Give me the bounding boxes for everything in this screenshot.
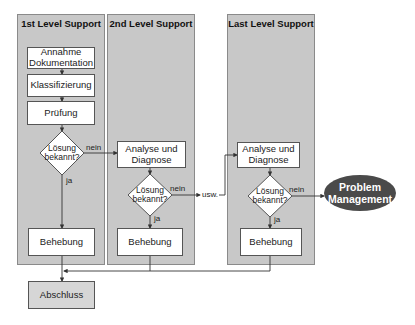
decision-label: Lösung bekannt? — [40, 144, 84, 162]
step-label: Behebung — [128, 237, 171, 248]
label-nein: nein — [289, 185, 304, 194]
step-label: Behebung — [249, 237, 292, 248]
step-klassifizierung: Klassifizierung — [27, 74, 95, 97]
step-behebung-l3: Behebung — [240, 228, 302, 256]
lane-title: Last Level Support — [228, 18, 314, 29]
step-label-line1: Analyse und — [125, 144, 177, 155]
step-label-line2: Diagnose — [248, 155, 288, 166]
step-behebung-l2: Behebung — [117, 228, 183, 256]
label-ja: ja — [274, 215, 280, 224]
decision-label: Lösung bekannt? — [248, 187, 292, 205]
node-label-line1: Problem — [339, 181, 381, 193]
problem-management-node: Problem Management — [324, 175, 396, 211]
step-abschluss: Abschluss — [28, 281, 95, 309]
label-nein: nein — [170, 184, 185, 193]
node-label-line2: Management — [328, 193, 392, 205]
label-ja: ja — [154, 214, 160, 223]
label-ja: ja — [66, 176, 72, 185]
decision-solution-known-l2: Lösung bekannt? — [128, 174, 172, 216]
label-nein: nein — [86, 143, 101, 152]
step-label: Prüfung — [44, 108, 77, 119]
step-label: Klassifizierung — [30, 80, 91, 91]
step-label: Behebung — [40, 237, 83, 248]
step-annahme-dokumentation: Annahme Dokumentation — [27, 47, 95, 69]
decision-label: Lösung bekannt? — [128, 186, 172, 204]
decision-solution-known-l1: Lösung bekannt? — [40, 131, 84, 175]
step-behebung-l1: Behebung — [28, 228, 95, 256]
step-analyse-diagnose-l3: Analyse und Diagnose — [237, 142, 300, 168]
step-analyse-diagnose-l2: Analyse und Diagnose — [117, 141, 186, 168]
step-label: Abschluss — [40, 290, 83, 301]
step-label-line2: Diagnose — [131, 155, 171, 166]
decision-solution-known-l3: Lösung bekannt? — [248, 175, 292, 217]
step-pruefung: Prüfung — [27, 101, 95, 125]
step-label-line2: Dokumentation — [29, 58, 93, 69]
label-usw: usw. — [202, 190, 218, 199]
lane-title: 2nd Level Support — [108, 18, 194, 29]
lane-title: 1st Level Support — [18, 18, 104, 29]
